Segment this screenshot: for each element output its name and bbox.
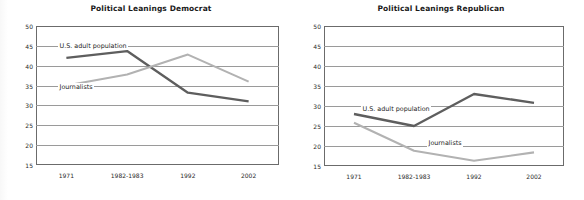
x-axis-tick-label: 1992 xyxy=(180,172,195,179)
chart-panel-democrat: Political Leanings Democrat 152025303540… xyxy=(0,0,292,200)
y-axis-tick-label: 45 xyxy=(313,43,321,50)
y-axis-tick-label: 35 xyxy=(25,82,33,89)
annotation-us-adult-population-republican: U.S. adult population xyxy=(361,105,431,113)
chart-title-democrat: Political Leanings Democrat xyxy=(0,4,292,13)
x-axis-tick-label: 2002 xyxy=(241,172,256,179)
annotation-us-adult-population-democrat: U.S. adult population xyxy=(58,42,128,50)
y-axis-tick-labels-democrat: 1520253035404550 xyxy=(17,26,33,165)
chart-panel-republican: Political Leanings Republican 1520253035… xyxy=(292,0,584,200)
figure-canvas: Political Leanings Democrat 152025303540… xyxy=(0,0,584,200)
chart-title-republican: Political Leanings Republican xyxy=(292,4,584,13)
y-axis-tick-label: 20 xyxy=(25,142,33,149)
y-axis-tick-label: 30 xyxy=(313,103,321,110)
y-axis-tick-label: 35 xyxy=(313,83,321,90)
y-axis-tick-label: 30 xyxy=(25,102,33,109)
y-axis-tick-label: 40 xyxy=(25,62,33,69)
y-axis-tick-label: 20 xyxy=(313,143,321,150)
y-axis-tick-label: 50 xyxy=(25,23,33,30)
x-axis-tick-labels-republican: 19711982-198319922002 xyxy=(324,173,564,185)
y-axis-tick-label: 15 xyxy=(25,162,33,169)
y-axis-tick-labels-republican: 1520253035404550 xyxy=(305,26,321,166)
y-axis-tick-label: 50 xyxy=(313,23,321,30)
x-axis-tick-label: 1992 xyxy=(466,173,481,180)
x-axis-tick-label: 2002 xyxy=(526,173,541,180)
plot-area-republican: U.S. adult population Journalists xyxy=(324,26,564,166)
x-axis-tick-labels-democrat: 19711982-198319922002 xyxy=(36,172,279,184)
y-axis-tick-label: 40 xyxy=(313,63,321,70)
x-axis-tick-label: 1982-1983 xyxy=(398,173,431,180)
y-axis-tick-label: 15 xyxy=(313,163,321,170)
annotation-journalists-democrat: Journalists xyxy=(58,83,94,91)
y-axis-tick-label: 45 xyxy=(25,42,33,49)
y-axis-tick-label: 25 xyxy=(25,122,33,129)
x-axis-tick-label: 1982-1983 xyxy=(111,172,144,179)
series-line-journalists xyxy=(66,55,248,86)
x-axis-tick-label: 1971 xyxy=(346,173,361,180)
plot-area-democrat: U.S. adult population Journalists xyxy=(36,26,279,165)
y-axis-tick-label: 25 xyxy=(313,123,321,130)
annotation-journalists-republican: Journalists xyxy=(427,139,463,147)
x-axis-tick-label: 1971 xyxy=(59,172,74,179)
series-line-u-s-adult-population xyxy=(66,51,248,101)
